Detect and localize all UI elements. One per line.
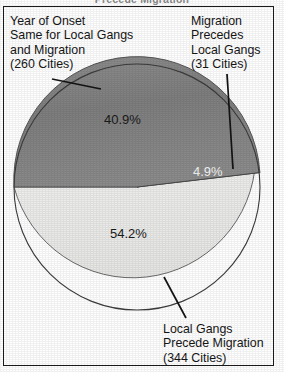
label-migration-precedes-line3: Local Gangs [191,43,261,57]
label-migration-precedes-line4: (31 Cities) [191,57,261,71]
leader-line-gangs-precede [164,277,186,318]
label-migration-precedes-line2: Precedes [191,28,261,42]
label-migration-precedes-line1: Migration [191,14,261,28]
label-gangs-precede-line2: Precede Migration [163,336,264,350]
label-gangs-precede-line3: (344 Cities) [163,351,264,365]
label-same-onset-line3: and Migration [10,43,133,57]
label-migration-precedes: Migration Precedes Local Gangs (31 Citie… [191,14,261,72]
pie-chart-figure: Precede Migration [0,0,284,372]
slice-value-same-onset: 40.9% [104,112,141,127]
slice-value-migration-precedes: 4.9% [193,164,223,179]
label-same-onset-line2: Same for Local Gangs [10,28,133,42]
label-same-onset: Year of Onset Same for Local Gangs and M… [10,14,133,72]
label-same-onset-line1: Year of Onset [10,14,133,28]
label-same-onset-line4: (260 Cities) [10,57,133,71]
slice-value-gangs-precede: 54.2% [110,226,147,241]
label-gangs-precede-line1: Local Gangs [163,322,264,336]
label-gangs-precede: Local Gangs Precede Migration (344 Citie… [163,322,264,365]
